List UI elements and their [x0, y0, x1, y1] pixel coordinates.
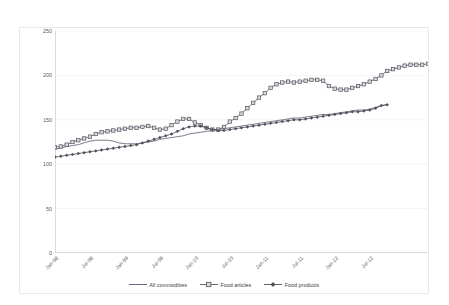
series-marker-1 — [415, 63, 418, 66]
series-marker-1 — [298, 80, 301, 83]
series-marker-2 — [281, 120, 284, 123]
series-marker-1 — [170, 123, 173, 126]
series-marker-2 — [88, 150, 91, 153]
series-marker-2 — [263, 123, 266, 126]
series-marker-2 — [123, 145, 126, 148]
series-marker-1 — [147, 124, 150, 127]
series-line-0 — [55, 105, 387, 149]
y-axis-tick-label: 0 — [24, 250, 52, 256]
series-marker-1 — [88, 135, 91, 138]
legend-item[interactable]: Food articles — [200, 281, 251, 288]
x-axis-tick-label: Jan-12 — [324, 255, 339, 270]
series-marker-2 — [170, 133, 173, 136]
x-axis-tick-label: Jul-11 — [290, 255, 304, 269]
series-marker-1 — [77, 139, 80, 142]
series-marker-1 — [310, 78, 313, 81]
series-marker-1 — [380, 74, 383, 77]
series-marker-1 — [112, 129, 115, 132]
series-marker-1 — [152, 126, 155, 129]
series-marker-2 — [380, 104, 383, 107]
x-axis-tick-label: Jul-08 — [80, 255, 94, 269]
series-marker-1 — [281, 81, 284, 84]
y-axis-tick-label: 200 — [24, 72, 52, 78]
legend-marker-square-icon — [200, 281, 218, 288]
plot-area — [55, 31, 428, 253]
series-marker-2 — [158, 136, 161, 139]
series-marker-1 — [55, 146, 57, 149]
series-marker-1 — [176, 120, 179, 123]
series-line-1 — [55, 64, 428, 147]
legend-marker-line-icon — [129, 281, 147, 288]
series-marker-2 — [223, 129, 226, 132]
series-marker-1 — [316, 78, 319, 81]
x-axis-tick-label: Jul-09 — [150, 255, 164, 269]
series-marker-1 — [263, 91, 266, 94]
series-marker-2 — [100, 148, 103, 151]
series-marker-1 — [409, 63, 412, 66]
series-marker-1 — [345, 88, 348, 91]
series-marker-2 — [246, 125, 249, 128]
series-marker-1 — [391, 67, 394, 70]
legend-label: Food articles — [220, 282, 251, 288]
series-marker-1 — [234, 116, 237, 119]
series-marker-1 — [304, 79, 307, 82]
series-marker-1 — [333, 87, 336, 90]
series-marker-1 — [123, 127, 126, 130]
legend-label: Food products — [285, 282, 319, 288]
series-marker-1 — [129, 126, 132, 129]
series-marker-2 — [298, 118, 301, 121]
series-marker-2 — [234, 127, 237, 130]
series-marker-2 — [322, 115, 325, 118]
series-marker-2 — [357, 110, 360, 113]
series-marker-1 — [397, 66, 400, 69]
series-marker-1 — [240, 112, 243, 115]
series-marker-1 — [82, 137, 85, 140]
series-marker-2 — [182, 127, 185, 130]
chart-legend: All commoditiesFood articlesFood product… — [19, 281, 429, 288]
series-marker-1 — [158, 128, 161, 131]
series-marker-1 — [65, 143, 68, 146]
legend-label: All commodities — [149, 282, 187, 288]
x-axis-tick-label: Jan-09 — [114, 255, 129, 270]
series-marker-1 — [275, 83, 278, 86]
series-marker-2 — [71, 153, 74, 156]
series-marker-1 — [286, 80, 289, 83]
series-marker-2 — [228, 128, 231, 131]
series-marker-1 — [420, 63, 423, 66]
series-marker-2 — [59, 155, 62, 158]
series-marker-1 — [292, 81, 295, 84]
series-marker-2 — [112, 147, 115, 150]
series-marker-1 — [426, 62, 428, 65]
series-marker-1 — [94, 132, 97, 135]
series-marker-1 — [164, 127, 167, 130]
legend-marker-dot-icon — [264, 281, 282, 288]
series-marker-1 — [187, 117, 190, 120]
series-marker-2 — [292, 118, 295, 121]
legend-item[interactable]: All commodities — [129, 281, 187, 288]
plot-svg — [55, 31, 428, 253]
series-marker-1 — [339, 88, 342, 91]
series-marker-1 — [106, 130, 109, 133]
series-marker-1 — [374, 77, 377, 80]
series-marker-2 — [176, 130, 179, 133]
series-line-2 — [55, 105, 387, 157]
series-marker-2 — [316, 116, 319, 119]
series-marker-2 — [77, 152, 80, 155]
series-marker-2 — [55, 156, 57, 159]
series-marker-1 — [362, 83, 365, 86]
series-marker-2 — [164, 134, 167, 137]
series-marker-2 — [275, 121, 278, 124]
series-marker-2 — [240, 126, 243, 129]
series-marker-2 — [141, 141, 144, 144]
series-marker-1 — [368, 80, 371, 83]
series-marker-2 — [269, 122, 272, 125]
series-marker-1 — [59, 145, 62, 148]
series-marker-1 — [403, 64, 406, 67]
series-marker-2 — [193, 125, 196, 128]
series-marker-2 — [310, 117, 313, 120]
legend-item[interactable]: Food products — [264, 281, 319, 288]
series-marker-1 — [117, 128, 120, 131]
series-marker-1 — [351, 86, 354, 89]
series-marker-1 — [135, 126, 138, 129]
series-marker-2 — [83, 151, 86, 154]
